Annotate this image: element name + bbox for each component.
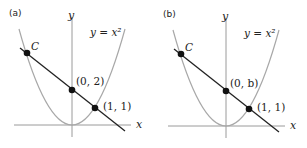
point-1-1-label: (1, 1): [257, 102, 285, 113]
point-c: [24, 50, 31, 57]
point-c: [178, 51, 185, 58]
y-axis-label: y: [68, 10, 74, 21]
x-axis-label: x: [290, 120, 296, 131]
point-intercept-label: (0, 2): [76, 76, 104, 87]
point-1-1-label: (1, 1): [103, 101, 131, 112]
point-c-label: C: [31, 41, 39, 52]
graph-b: [154, 0, 307, 148]
panel-a: (a) y x y = x² C (0, 2) (1, 1): [0, 0, 153, 148]
point-1-1: [92, 105, 99, 112]
point-1-1: [246, 106, 253, 113]
point-intercept: [223, 88, 230, 95]
point-intercept-label: (0, b): [230, 78, 258, 89]
y-axis-label: y: [222, 11, 228, 22]
x-axis-label: x: [136, 119, 142, 130]
panel-b: (b) y x y = x² C (0, b) (1, 1): [154, 0, 307, 148]
graph-a: [0, 0, 153, 148]
curve-label: y = x²: [90, 27, 122, 38]
panel-label: (a): [9, 9, 22, 18]
point-intercept: [69, 87, 76, 94]
point-c-label: C: [185, 42, 193, 53]
curve-label: y = x²: [244, 28, 276, 39]
panel-label: (b): [163, 10, 176, 19]
